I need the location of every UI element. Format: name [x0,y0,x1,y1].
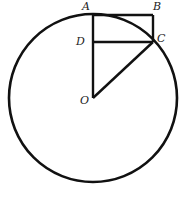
label-c: C [157,32,166,45]
label-a: A [81,0,90,13]
label-d: D [75,35,85,48]
geometry-diagram: A B C D O [0,0,182,199]
label-b: B [152,0,161,13]
segment-oc [93,42,153,98]
label-o: O [80,94,89,107]
